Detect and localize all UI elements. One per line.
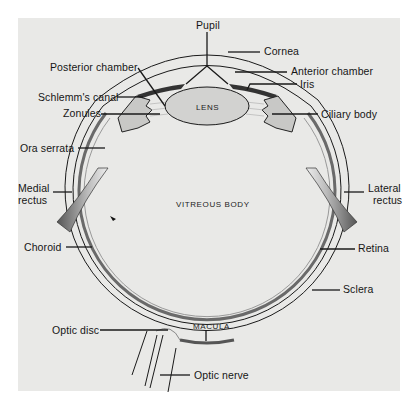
label-lateral-rectus-1: Lateral xyxy=(368,183,401,194)
label-retina: Retina xyxy=(358,243,389,254)
label-ora-serrata: Ora serrata xyxy=(20,143,74,154)
label-cornea: Cornea xyxy=(264,46,299,57)
label-optic-nerve: Optic nerve xyxy=(194,370,249,381)
label-medial-rectus-1: Medial xyxy=(18,183,50,194)
sclera xyxy=(65,100,349,331)
label-iris: Iris xyxy=(300,79,314,90)
label-lens: LENS xyxy=(196,102,219,113)
label-pupil: Pupil xyxy=(196,20,220,31)
label-macula: MACULA xyxy=(193,321,230,332)
label-sclera: Sclera xyxy=(343,284,373,295)
label-posterior-chamber: Posterior chamber xyxy=(50,62,137,73)
label-vitreous-body: VITREOUS BODY xyxy=(176,199,250,210)
label-anterior-chamber: Anterior chamber xyxy=(291,66,373,77)
optic-nerve xyxy=(132,328,180,392)
label-optic-disc: Optic disc xyxy=(52,325,99,336)
label-lateral-rectus-2: rectus xyxy=(373,195,402,206)
label-ciliary-body: Ciliary body xyxy=(321,109,377,120)
label-zonules: Zonules xyxy=(63,108,101,119)
label-choroid: Choroid xyxy=(24,242,61,253)
macula xyxy=(180,340,234,343)
label-medial-rectus-2: rectus xyxy=(18,195,47,206)
vitreous-speck xyxy=(110,216,116,221)
choroid-retina-band xyxy=(79,113,335,320)
label-schlemms-canal: Schlemm's canal xyxy=(38,92,119,103)
